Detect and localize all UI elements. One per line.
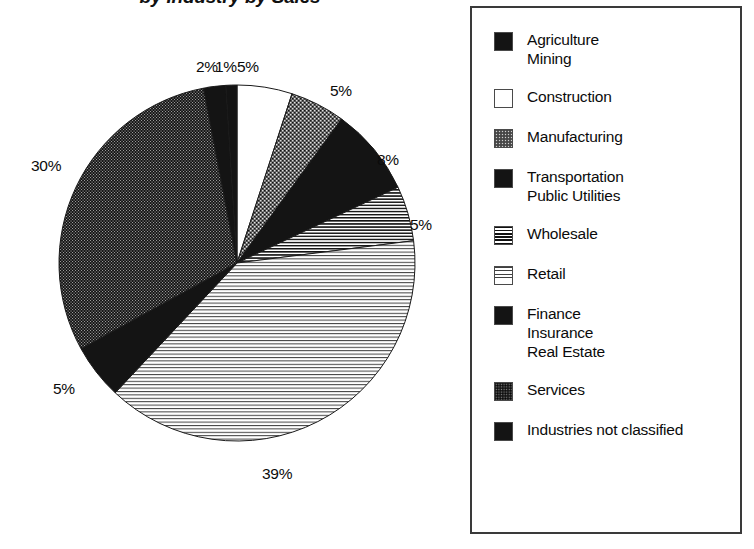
legend: AgricultureMiningConstructionManufacturi… — [470, 6, 742, 534]
legend-item-industries-not-classified[interactable]: Industries not classified — [494, 420, 730, 441]
legend-item-manufacturing[interactable]: Manufacturing — [494, 127, 730, 148]
pie-chart: 5%5%8%5%39%5%30%2%1% — [0, 0, 470, 549]
legend-item-transportation[interactable]: TransportationPublic Utilities — [494, 167, 730, 205]
legend-swatch-industries-not-classified — [494, 422, 513, 441]
pie-label-wholesale: 5% — [410, 216, 432, 234]
pie-label-industries-not-classified: 1% — [215, 58, 237, 76]
legend-label-retail: Retail — [527, 264, 565, 283]
legend-label-industries-not-classified: Industries not classified — [527, 420, 683, 439]
legend-label-transportation: TransportationPublic Utilities — [527, 167, 624, 205]
pie-label-construction: 5% — [237, 58, 259, 76]
legend-swatch-retail — [494, 266, 513, 285]
legend-label-manufacturing: Manufacturing — [527, 127, 623, 146]
legend-swatch-wholesale — [494, 226, 513, 245]
legend-item-finance[interactable]: FinanceInsuranceReal Estate — [494, 304, 730, 361]
legend-item-retail[interactable]: Retail — [494, 264, 730, 285]
pie-chart-svg — [0, 0, 470, 549]
legend-label-wholesale: Wholesale — [527, 224, 598, 243]
legend-swatch-transportation — [494, 169, 513, 188]
legend-items: AgricultureMiningConstructionManufacturi… — [494, 30, 730, 460]
legend-swatch-manufacturing — [494, 129, 513, 148]
legend-item-construction[interactable]: Construction — [494, 87, 730, 108]
legend-swatch-construction — [494, 89, 513, 108]
pie-label-finance: 5% — [53, 380, 75, 398]
legend-swatch-finance — [494, 306, 513, 325]
legend-swatch-services — [494, 382, 513, 401]
legend-item-agriculture-mining[interactable]: AgricultureMining — [494, 30, 730, 68]
pie-label-manufacturing: 5% — [330, 82, 352, 100]
legend-label-agriculture-mining: AgricultureMining — [527, 30, 599, 68]
pie-label-transportation: 8% — [377, 151, 399, 169]
pie-label-services: 30% — [31, 157, 61, 175]
legend-item-wholesale[interactable]: Wholesale — [494, 224, 730, 245]
pie-slices — [59, 85, 415, 441]
pie-label-retail: 39% — [262, 465, 292, 483]
legend-label-finance: FinanceInsuranceReal Estate — [527, 304, 605, 361]
legend-item-services[interactable]: Services — [494, 380, 730, 401]
legend-label-construction: Construction — [527, 87, 612, 106]
legend-swatch-agriculture-mining — [494, 32, 513, 51]
legend-label-services: Services — [527, 380, 585, 399]
